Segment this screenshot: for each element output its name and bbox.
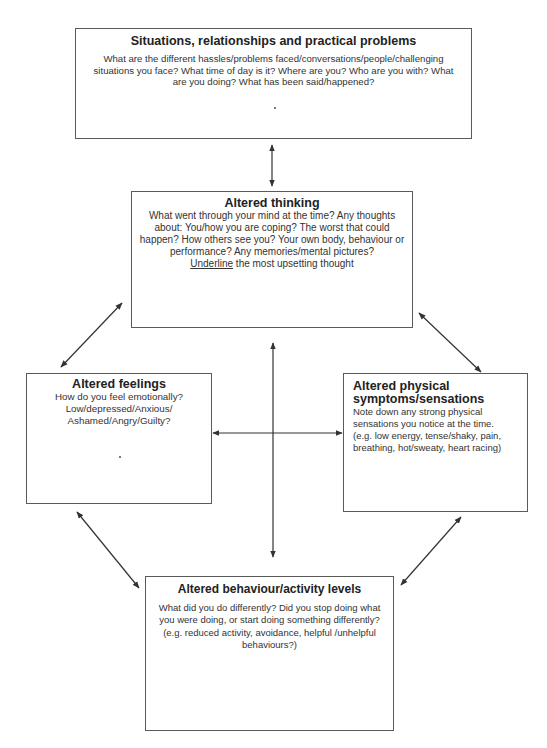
stray-dot [119,456,121,458]
behaviour-title: Altered behaviour/activity levels [146,582,393,596]
arrow-physical-behaviour [401,517,461,585]
physical-title-line: symptoms/sensations [353,393,527,406]
feelings-prompt-line: Ashamed/Angry/Guilty? [27,415,211,427]
physical-prompt: Note down any strong physical sensations… [353,406,527,454]
physical-prompt-line: breathing, hot/sweaty, heart racing) [353,442,527,454]
situations-prompt-line: are you doing? What has been said/happen… [76,76,471,88]
behaviour-prompt-line: you were doing, or start doing something… [146,614,393,626]
physical-prompt-line: Note down any strong physical [353,406,527,418]
thinking-prompt-line: performance? Any memories/mental picture… [132,246,412,258]
behaviour-prompt: What did you do differently? Did you sto… [146,602,393,651]
underline-word: Underline [190,258,233,269]
stray-dot [274,107,276,109]
thinking-prompt-line: about: You/how you are coping? The worst… [132,222,412,234]
feelings-prompt: How do you feel emotionally? Low/depress… [27,391,211,427]
thinking-prompt-line: What went through your mind at the time?… [132,210,412,222]
thinking-instruction: the most upsetting thought [233,258,354,269]
arrow-thinking-physical [419,313,481,372]
situations-box: Situations, relationships and practical … [75,28,472,139]
physical-title: Altered physical symptoms/sensations [353,380,527,405]
arrow-feelings-behaviour [77,512,139,588]
arrow-thinking-feelings [61,303,122,367]
physical-prompt-line: sensations you notice at the time. [353,418,527,430]
feelings-title: Altered feelings [27,377,211,391]
physical-title-line: Altered physical [353,380,527,393]
behaviour-box: Altered behaviour/activity levels What d… [145,576,394,731]
situations-prompt: What are the different hassles/problems … [76,53,471,88]
behaviour-prompt-line: What did you do differently? Did you sto… [146,602,393,614]
thinking-prompt-line: Underline the most upsetting thought [132,258,412,270]
feelings-prompt-line: How do you feel emotionally? [27,391,211,403]
thinking-title: Altered thinking [132,196,412,210]
thinking-box: Altered thinking What went through your … [131,191,413,328]
physical-box: Altered physical symptoms/sensations Not… [343,373,528,512]
behaviour-prompt-line: (e.g. reduced activity, avoidance, helpf… [146,627,393,639]
thinking-prompt: What went through your mind at the time?… [132,210,412,270]
physical-prompt-line: (e.g. low energy, tense/shaky, pain, [353,430,527,442]
behaviour-prompt-line: behaviours?) [146,639,393,651]
feelings-prompt-line: Low/depressed/Anxious/ [27,403,211,415]
situations-prompt-line: situations you face? What time of day is… [76,65,471,77]
situations-title: Situations, relationships and practical … [76,34,471,48]
feelings-box: Altered feelings How do you feel emotion… [26,373,212,504]
situations-prompt-line: What are the different hassles/problems … [76,53,471,65]
thinking-prompt-line: happen? How others see you? Your own bod… [132,234,412,246]
